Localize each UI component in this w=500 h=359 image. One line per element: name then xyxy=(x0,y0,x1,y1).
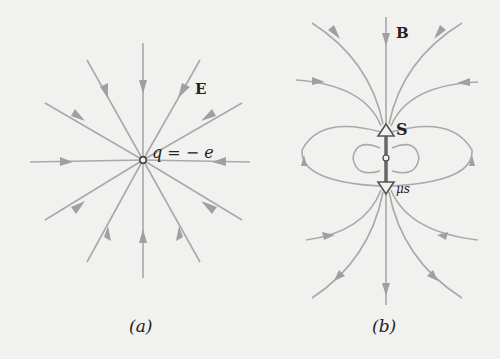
magnetic-moment-label: μs xyxy=(396,182,410,196)
spin-label: S xyxy=(396,120,408,139)
caption-b: (b) xyxy=(372,316,396,336)
magnetic-field-label: B xyxy=(396,24,409,42)
charge-point xyxy=(140,157,146,163)
diagram-canvas xyxy=(0,0,500,359)
spin-vector xyxy=(378,124,394,194)
charge-label: q = − e xyxy=(152,143,214,162)
electric-field-label: E xyxy=(195,80,206,98)
caption-a: (a) xyxy=(129,316,152,336)
